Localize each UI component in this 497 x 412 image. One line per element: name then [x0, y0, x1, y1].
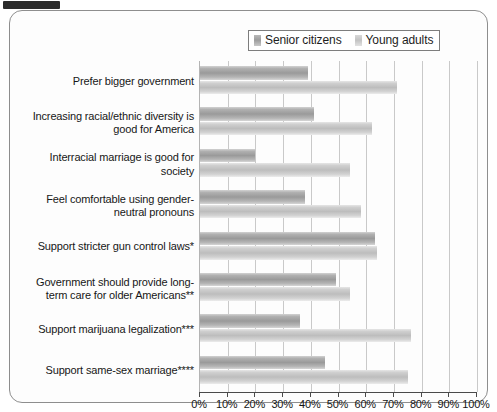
bar-senior-citizens: [200, 149, 255, 163]
tick-mark: [227, 393, 228, 397]
gridline: [477, 61, 478, 392]
category-row: Support same-sex marriage****: [200, 351, 476, 392]
tick-mark: [254, 393, 255, 397]
tick-label: 60%: [354, 398, 375, 410]
tick-label: 70%: [382, 398, 403, 410]
category-label: Government should provide long-term care…: [16, 275, 194, 301]
tick-label: 90%: [438, 398, 459, 410]
tick-label: 40%: [299, 398, 320, 410]
category-label: Support same-sex marriage****: [16, 365, 194, 378]
plot-area: Prefer bigger governmentIncreasing racia…: [199, 61, 476, 392]
category-row: Prefer bigger government: [200, 61, 476, 102]
tick-mark: [448, 393, 449, 397]
category-row: Feel comfortable using gender-neutral pr…: [200, 185, 476, 226]
chart-figure-frame: Senior citizens Young adults Prefer bigg…: [9, 10, 488, 403]
legend-label-young-adults: Young adults: [366, 33, 434, 47]
scan-artifact: [3, 1, 60, 9]
category-row: Support stricter gun control laws*: [200, 227, 476, 268]
tick-mark: [393, 393, 394, 397]
legend-swatch-young-adults: [355, 35, 362, 46]
legend-swatch-senior-citizens: [254, 35, 261, 46]
tick-mark: [365, 393, 366, 397]
tick-mark: [421, 393, 422, 397]
bar-senior-citizens: [200, 190, 305, 204]
bar-young-adults: [200, 329, 411, 343]
category-row: Support marijuana legalization***: [200, 309, 476, 350]
category-row: Increasing racial/ethnic diversity is go…: [200, 102, 476, 143]
category-label: Support stricter gun control laws*: [16, 241, 194, 254]
bar-senior-citizens: [200, 356, 325, 370]
bar-senior-citizens: [200, 232, 375, 246]
bar-young-adults: [200, 81, 397, 95]
tick-mark: [310, 393, 311, 397]
bar-young-adults: [200, 370, 408, 384]
category-row: Interracial marriage is good for society: [200, 144, 476, 185]
bar-young-adults: [200, 287, 350, 301]
category-label: Interracial marriage is good for society: [16, 151, 194, 177]
tick-mark: [476, 393, 477, 397]
chart-legend: Senior citizens Young adults: [248, 30, 440, 51]
bar-senior-citizens: [200, 66, 308, 80]
tick-label: 50%: [327, 398, 348, 410]
bar-senior-citizens: [200, 314, 300, 328]
category-label: Feel comfortable using gender-neutral pr…: [16, 193, 194, 219]
bar-young-adults: [200, 246, 377, 260]
bar-senior-citizens: [200, 107, 314, 121]
bar-senior-citizens: [200, 273, 336, 287]
category-row: Government should provide long-term care…: [200, 268, 476, 309]
tick-mark: [199, 393, 200, 397]
tick-label: 10%: [216, 398, 237, 410]
tick-label: 100%: [462, 398, 489, 410]
tick-label: 30%: [271, 398, 292, 410]
bar-young-adults: [200, 122, 372, 136]
legend-entry-young-adults: Young adults: [355, 33, 434, 47]
tick-label: 80%: [410, 398, 431, 410]
category-label: Increasing racial/ethnic diversity is go…: [16, 110, 194, 136]
category-label: Support marijuana legalization***: [16, 323, 194, 336]
legend-entry-senior-citizens: Senior citizens: [254, 33, 342, 47]
x-axis-ticks: 0%10%20%30%40%50%60%70%80%90%100%: [199, 393, 476, 412]
tick-mark: [282, 393, 283, 397]
bar-young-adults: [200, 205, 361, 219]
category-label: Prefer bigger government: [16, 75, 194, 88]
tick-label: 0%: [191, 398, 207, 410]
tick-label: 20%: [244, 398, 265, 410]
tick-mark: [338, 393, 339, 397]
legend-label-senior-citizens: Senior citizens: [265, 33, 342, 47]
bar-young-adults: [200, 163, 350, 177]
